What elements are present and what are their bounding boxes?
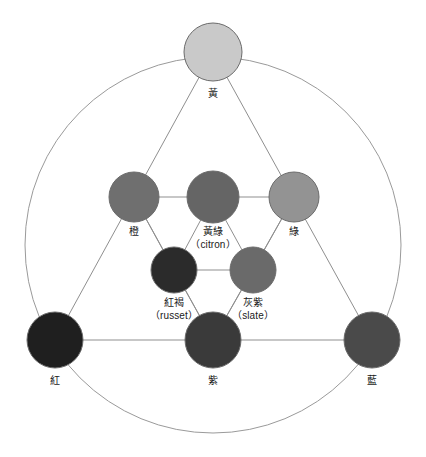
color-wheel-canvas (0, 0, 426, 457)
color-node-orange[interactable] (109, 172, 159, 222)
color-wheel-diagram: 黃橙黃綠（citron）綠紅褐（russet）灰紫（slate）紅紫藍 (0, 0, 426, 457)
outer-ring-group (25, 57, 401, 433)
connector-line-slate-purple (226, 289, 242, 316)
connector-line-russet-orange (146, 218, 164, 251)
color-node-blue[interactable] (344, 312, 400, 368)
color-node-green[interactable] (269, 172, 319, 222)
color-node-citron[interactable] (187, 171, 239, 223)
outer-circle (25, 57, 401, 433)
connector-line-slate-citron (225, 219, 242, 251)
color-node-purple[interactable] (185, 312, 241, 368)
connector-line-russet-citron (184, 219, 201, 251)
color-node-russet[interactable] (151, 247, 197, 293)
color-node-red[interactable] (27, 312, 83, 368)
color-node-slate[interactable] (230, 247, 276, 293)
color-node-yellow[interactable] (184, 23, 242, 81)
connector-line-russet-purple (185, 289, 200, 316)
connector-line-slate-green (264, 218, 282, 251)
color-nodes-group (27, 23, 400, 368)
